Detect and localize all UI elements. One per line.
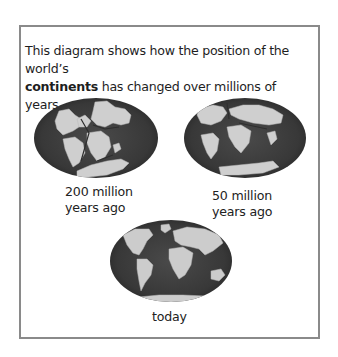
intro-bold-word: continents bbox=[25, 79, 98, 94]
globe-200-million-years-ago bbox=[33, 97, 159, 179]
label-200-million-years-ago: 200 million years ago bbox=[65, 184, 133, 216]
intro-line-1: This diagram shows how the position of t… bbox=[25, 43, 289, 76]
label-50-million-years-ago: 50 million years ago bbox=[212, 188, 272, 220]
globe-50-million-years-ago bbox=[183, 97, 307, 179]
globe-today bbox=[109, 219, 233, 303]
label-today: today bbox=[152, 309, 187, 325]
